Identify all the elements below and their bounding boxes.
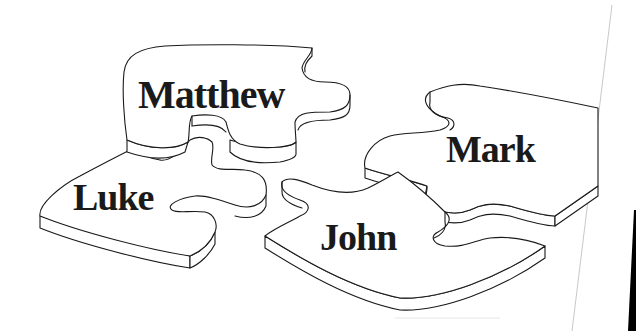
piece-label-matthew: Matthew bbox=[138, 72, 285, 117]
piece-label-luke: Luke bbox=[73, 176, 154, 218]
piece-label-mark: Mark bbox=[446, 128, 537, 170]
dark-page-margin bbox=[628, 210, 636, 331]
puzzle-illustration: Luke Matthew Mark John bbox=[0, 0, 636, 331]
piece-label-john: John bbox=[320, 216, 397, 258]
notch-edge-line bbox=[192, 116, 226, 132]
puzzle-piece-matthew: Matthew bbox=[123, 45, 350, 163]
